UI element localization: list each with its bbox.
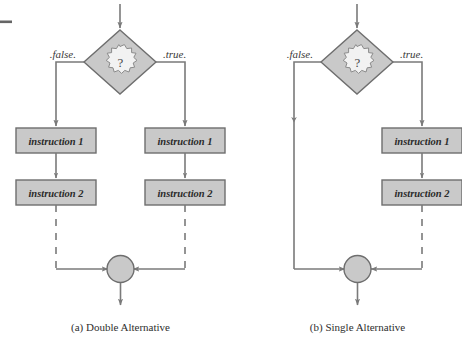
branch-label-true: .true. bbox=[163, 48, 186, 60]
merge-circle bbox=[107, 256, 134, 283]
branch-label-true: .true. bbox=[400, 48, 423, 60]
instruction-box-label: instruction 1 bbox=[394, 136, 449, 147]
diagram-caption: (a) Double Alternative bbox=[71, 321, 170, 334]
page-edge-mark-icon bbox=[0, 21, 12, 24]
merge-circle bbox=[344, 256, 371, 283]
decision-question-mark: ? bbox=[355, 55, 361, 70]
branch-label-false: .false. bbox=[287, 48, 313, 60]
flowchart-svg: ? .false. .true. instruction 1 instructi… bbox=[0, 0, 462, 353]
instruction-box-label: instruction 2 bbox=[394, 188, 450, 199]
instruction-box-label: instruction 2 bbox=[28, 188, 84, 199]
instruction-box-label: instruction 1 bbox=[157, 136, 212, 147]
diagram-caption: (b) Single Alternative bbox=[310, 321, 405, 334]
decision-question-mark: ? bbox=[118, 55, 124, 70]
instruction-box-label: instruction 2 bbox=[157, 188, 213, 199]
branch-label-false: .false. bbox=[50, 48, 76, 60]
flowchart-figure: ? .false. .true. instruction 1 instructi… bbox=[0, 0, 462, 353]
instruction-box-label: instruction 1 bbox=[28, 136, 83, 147]
